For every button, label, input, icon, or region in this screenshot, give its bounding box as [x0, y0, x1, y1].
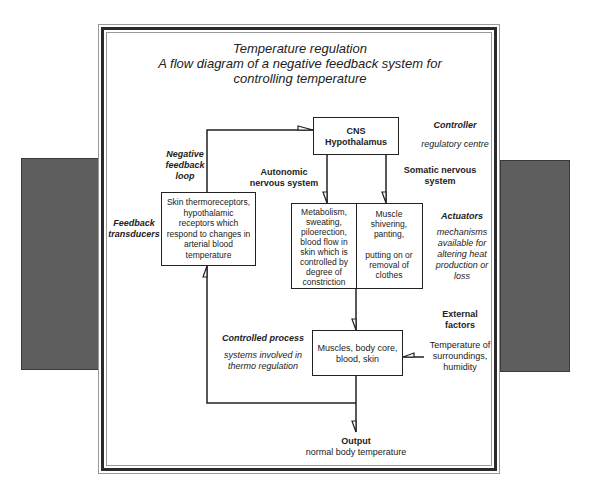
transducer-line-2: hypothalamic: [162, 208, 255, 219]
controlled-process-desc-1: systems involved in: [218, 350, 308, 361]
somatic-actuator-line-3: panting,: [357, 229, 422, 239]
arrowhead-from-external: [403, 353, 414, 357]
title-line-3: controlling temperature: [150, 71, 450, 86]
arrowhead-into-autonomic: [323, 192, 327, 203]
controller-box: CNS Hypothalamus: [313, 117, 399, 155]
actuators-heading: Actuators: [430, 211, 494, 222]
nfl-line-2: feedback: [162, 160, 208, 171]
autonomic-actuator-line-4: blood flow in: [292, 237, 356, 247]
controlled-process-label: Controlled process systems involved in t…: [218, 333, 308, 372]
arrowhead-into-somatic: [382, 192, 386, 203]
arrowhead-into-process: [352, 319, 356, 330]
process-line-2: blood, skin: [313, 354, 402, 365]
actuator-autonomic-box: Metabolism, sweating, piloerection, bloo…: [291, 203, 357, 289]
somatic-line-2: system: [400, 176, 480, 187]
external-desc-1: Temperature of: [425, 340, 495, 351]
autonomic-line-1: Autonomic: [245, 167, 323, 178]
output-desc: normal body temperature: [300, 447, 412, 458]
arrowhead-into-transducer: [203, 266, 207, 277]
autonomic-line-2: nervous system: [245, 178, 323, 189]
somatic-actuator-line-5: removal of: [357, 260, 422, 270]
somatic-nervous-system-label: Somatic nervous system: [400, 165, 480, 187]
autonomic-actuator-line-8: constriction: [292, 277, 356, 287]
somatic-actuator-line-4: putting on or: [357, 250, 422, 260]
nfl-line-3: loop: [162, 171, 208, 182]
actuators-desc-4: production or: [430, 260, 494, 271]
external-desc-2: surroundings,: [425, 351, 495, 362]
title-line-1: Temperature regulation: [150, 41, 450, 56]
transducer-line-6: temperature: [162, 250, 255, 261]
arrowhead-into-output: [352, 421, 356, 432]
feedback-transducers-label: Feedback transducers: [104, 218, 164, 240]
output-heading: Output: [300, 436, 412, 447]
process-line-1: Muscles, body core,: [313, 343, 402, 354]
actuators-label: Actuators mechanisms available for alter…: [430, 211, 494, 282]
diagram-title: Temperature regulation A flow diagram of…: [150, 41, 450, 86]
somatic-line-1: Somatic nervous: [400, 165, 480, 176]
arrowhead-into-controller: [298, 126, 313, 130]
actuator-somatic-box: Muscle shivering, panting, putting on or…: [356, 203, 423, 289]
controller-label: Controller regulatory centre: [415, 120, 495, 150]
external-factors-label: External factors Temperature of surround…: [425, 309, 495, 373]
autonomic-actuator-line-3: piloerection,: [292, 227, 356, 237]
autonomic-actuator-line-7: degree of: [292, 267, 356, 277]
feedback-transducer-box: Skin thermoreceptors, hypothalamic recep…: [161, 192, 256, 266]
external-heading-2: factors: [425, 320, 495, 331]
ft-line-2: transducers: [104, 229, 164, 240]
somatic-actuator-line-2: shivering,: [357, 219, 422, 229]
transducer-line-5: arterial blood: [162, 239, 255, 250]
actuators-desc-2: available for: [430, 238, 494, 249]
external-heading-1: External: [425, 309, 495, 320]
negative-feedback-loop-label: Negative feedback loop: [162, 149, 208, 182]
controller-box-line-2: Hypothalamus: [314, 137, 398, 148]
autonomic-actuator-line-2: sweating,: [292, 217, 356, 227]
controlled-process-heading: Controlled process: [218, 333, 308, 344]
transducer-line-1: Skin thermoreceptors,: [162, 197, 255, 208]
ft-line-1: Feedback: [104, 218, 164, 229]
title-line-2: A flow diagram of a negative feedback sy…: [150, 56, 450, 71]
actuators-desc-1: mechanisms: [430, 227, 494, 238]
actuators-desc-5: loss: [430, 271, 494, 282]
output-label: Output normal body temperature: [300, 436, 412, 458]
transducer-line-4: respond to changes in: [162, 229, 255, 240]
external-desc-3: humidity: [425, 362, 495, 373]
controller-heading: Controller: [415, 120, 495, 131]
somatic-actuator-line-1: Muscle: [357, 209, 422, 219]
autonomic-actuator-line-1: Metabolism,: [292, 207, 356, 217]
actuators-desc-3: altering heat: [430, 249, 494, 260]
nfl-line-1: Negative: [162, 149, 208, 160]
autonomic-actuator-line-5: skin which is: [292, 247, 356, 257]
autonomic-nervous-system-label: Autonomic nervous system: [245, 167, 323, 189]
controlled-process-box: Muscles, body core, blood, skin: [312, 330, 403, 376]
transducer-line-3: receptors which: [162, 218, 255, 229]
somatic-actuator-line-6: clothes: [357, 270, 422, 280]
autonomic-actuator-line-6: controlled by: [292, 257, 356, 267]
controller-desc: regulatory centre: [415, 139, 495, 150]
controlled-process-desc-2: thermo regulation: [218, 361, 308, 372]
controller-box-line-1: CNS: [314, 126, 398, 137]
